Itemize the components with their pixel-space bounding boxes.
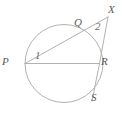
point-label-q: Q [74,17,82,28]
point-label-p: P [2,56,9,67]
geometry-figure: P Q R S X 1 2 [0,0,122,116]
point-label-x: X [108,4,115,15]
angle-label-2: 2 [95,21,101,32]
point-label-r: R [101,56,108,67]
angle-label-1: 1 [35,50,41,61]
point-label-s: S [91,92,97,103]
